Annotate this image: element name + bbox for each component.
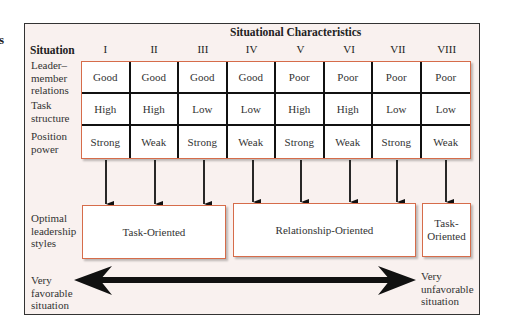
label-line: Optimal: [31, 212, 76, 225]
label-line: situation: [31, 299, 73, 312]
label-line: Very: [31, 274, 73, 287]
double-arrow-icon: [74, 266, 416, 295]
label-line: styles: [31, 237, 76, 250]
unfavorable-end-label: Very unfavorable situation: [421, 270, 474, 308]
down-arrow-icons: [106, 160, 446, 204]
label-line: situation: [421, 295, 474, 308]
label-line: unfavorable: [421, 283, 474, 296]
optimal-styles-label: Optimal leadership styles: [31, 212, 76, 250]
favorable-end-label: Very favorable situation: [31, 274, 73, 312]
style-box-task-oriented-viii: Task- Oriented: [422, 203, 471, 257]
label-line: Oriented: [427, 230, 465, 243]
style-box-relationship-oriented: Relationship-Oriented: [233, 203, 416, 257]
label-line: Very: [421, 270, 474, 283]
label-line: leadership: [31, 225, 76, 238]
style-box-task-oriented: Task-Oriented: [82, 205, 226, 259]
label-line: Task-: [434, 217, 458, 230]
label-line: favorable: [31, 287, 73, 300]
